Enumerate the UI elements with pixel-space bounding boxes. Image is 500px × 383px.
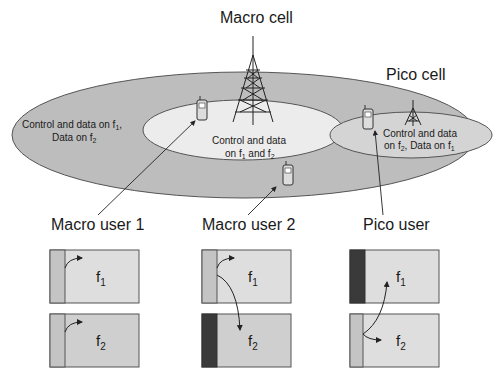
macro-user-1-label: Macro user 1 — [51, 216, 144, 233]
outer-region-label-line1: Control and data on f1, — [22, 119, 122, 131]
macro-user-2-f2-carrier: f2 — [202, 314, 291, 367]
macro-user-2-phone-icon — [283, 161, 293, 185]
pico-cell-title: Pico cell — [386, 66, 446, 83]
inner-region-label-line1: Control and data — [212, 135, 286, 146]
macro-cell-title: Macro cell — [220, 9, 293, 26]
blocked-control-region — [202, 314, 217, 367]
heterogeneous-network-diagram: Macro cell Pico cell Control and data on… — [0, 0, 500, 383]
pico-user-label: Pico user — [363, 216, 430, 233]
macro-inner-coverage — [143, 100, 343, 160]
pico-user-f1-carrier: f1 — [350, 250, 439, 303]
blocked-control-region — [350, 250, 365, 303]
pico-region-label-line2: on f2, Data on f1 — [384, 140, 455, 152]
macro-user-1-f1-carrier: f1 — [50, 250, 139, 303]
macro-user-2-label: Macro user 2 — [202, 216, 295, 233]
inner-region-label-line2: on f1 and f2 — [225, 148, 275, 160]
macro-user-2-f1-carrier: f1 — [202, 250, 291, 303]
pico-region-label-line1: Control and data — [383, 128, 457, 139]
macro-user-1-phone-icon — [197, 96, 207, 120]
outer-region-label-line2: Data on f2 — [52, 132, 97, 144]
macro-user-1-f2-carrier: f2 — [50, 314, 139, 367]
pico-user-phone-icon — [363, 105, 373, 129]
pico-user-f2-carrier: f2 — [350, 314, 439, 367]
